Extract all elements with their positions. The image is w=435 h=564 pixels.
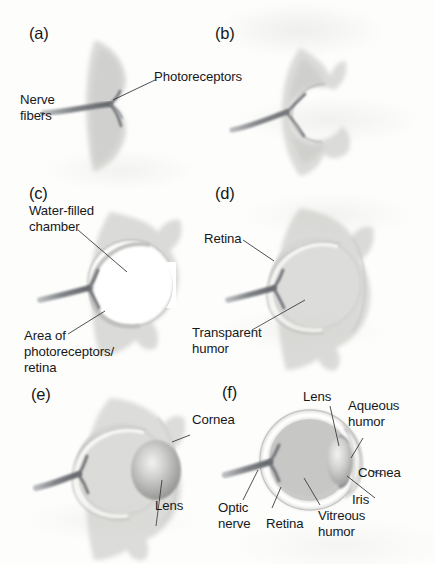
panel-e-artwork: [36, 398, 190, 560]
lens-e: [131, 440, 181, 500]
label-cornea-e: Cornea: [192, 412, 235, 428]
nerve-fibers-c: [40, 288, 89, 300]
panel-letter-f: (f): [222, 383, 237, 401]
label-area-of-photoreceptors-line1: Area of: [24, 328, 66, 344]
panel-letter-e: (e): [31, 385, 51, 403]
label-cornea-f: Cornea: [358, 465, 401, 481]
panel-letter-a: (a): [29, 24, 49, 42]
label-nerve-fibers-line2: fibers: [20, 108, 52, 124]
leader-retina-d: [243, 240, 274, 261]
label-photoreceptors: Photoreceptors: [154, 69, 242, 85]
label-iris-f: Iris: [352, 492, 369, 508]
label-aqueous-humor-line1: Aqueous: [348, 398, 399, 414]
panel-d-artwork: [228, 208, 374, 370]
label-area-of-photoreceptors-line2: photoreceptors/: [24, 344, 114, 360]
label-nerve-fibers-line1: Nerve: [20, 92, 55, 108]
label-area-of-photoreceptors-line3: retina: [24, 360, 56, 376]
panel-b-artwork: [232, 48, 350, 176]
label-optic-nerve-line1: Optic: [218, 500, 248, 516]
label-water-filled-chamber-line2: chamber: [29, 219, 80, 235]
label-transparent-humor-line1: Transparent: [192, 325, 262, 341]
label-retina-d: Retina: [204, 231, 242, 247]
panel-letter-c: (c): [29, 184, 48, 202]
nerve-fibers-b: [232, 112, 287, 130]
label-vitreous-humor-line1: Vitreous: [318, 508, 365, 524]
panel-a-artwork: [40, 40, 155, 172]
label-aqueous-humor-line2: humor: [348, 414, 385, 430]
label-optic-nerve-line2: nerve: [218, 516, 251, 532]
panel-letter-d: (d): [215, 184, 235, 202]
label-lens-f: Lens: [303, 389, 331, 405]
label-vitreous-humor-line2: humor: [318, 524, 355, 540]
eye-evolution-figure: (a) (b) (c) (d) (e) (f) Nerve fibers Pho…: [0, 0, 435, 564]
label-lens-e: Lens: [155, 498, 183, 514]
label-retina-f: Retina: [266, 516, 304, 532]
label-water-filled-chamber-line1: Water-filled: [29, 203, 94, 219]
label-transparent-humor-line2: humor: [192, 341, 229, 357]
panel-letter-b: (b): [215, 24, 235, 42]
leader-optic-nerve-f: [243, 470, 258, 500]
